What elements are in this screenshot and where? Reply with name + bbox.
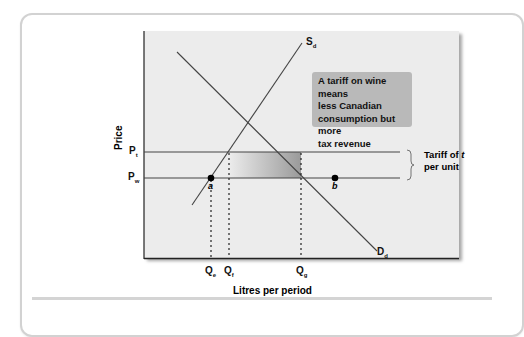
callout-line: tax revenue bbox=[318, 138, 412, 151]
qe-label: Qe bbox=[205, 265, 216, 278]
tariff-label-line2: per unit bbox=[424, 161, 464, 173]
callout-line: A tariff on wine means bbox=[318, 75, 412, 100]
callout-line: consumption but more bbox=[318, 113, 412, 138]
pw-label: Pw bbox=[128, 171, 139, 184]
annotation-callout: A tariff on wine means less Canadian con… bbox=[312, 72, 412, 127]
y-axis-label: Price bbox=[113, 126, 124, 150]
tariff-label-prefix: Tariff of bbox=[424, 149, 461, 160]
qf-label: Qf bbox=[224, 265, 234, 278]
pt-label: Pt bbox=[129, 145, 138, 158]
x-axis-label: Litres per period bbox=[233, 285, 312, 296]
supply-label: Sd bbox=[306, 36, 316, 49]
tariff-label: Tariff of t per unit bbox=[424, 149, 464, 173]
point-b-label: b bbox=[332, 181, 338, 191]
tariff-bracket bbox=[407, 150, 414, 180]
demand-label: Dd bbox=[377, 246, 388, 259]
tariff-variable: t bbox=[461, 149, 464, 160]
point-a-label: a bbox=[208, 181, 213, 191]
qg-label: Qg bbox=[296, 265, 307, 278]
callout-line: less Canadian bbox=[318, 100, 412, 113]
